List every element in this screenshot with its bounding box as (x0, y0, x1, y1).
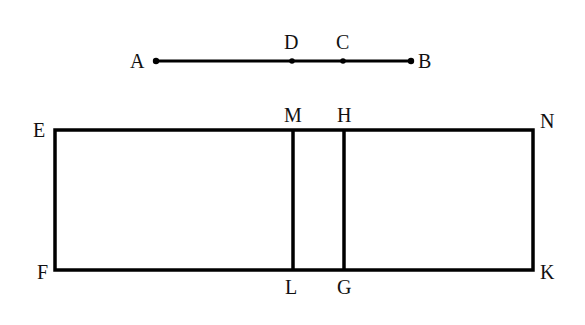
label-k: K (540, 261, 555, 283)
rectangle-efkn: E M H N F L G K (33, 104, 555, 298)
label-f: F (37, 261, 48, 283)
label-d: D (284, 31, 298, 53)
label-l: L (285, 276, 297, 298)
label-b: B (418, 50, 431, 72)
point-b-dot (408, 58, 414, 64)
label-h: H (337, 104, 351, 126)
label-a: A (130, 50, 145, 72)
geometry-diagram: A D C B E M H N F L G K (0, 0, 585, 325)
point-c-dot (340, 58, 346, 64)
label-c: C (336, 31, 349, 53)
label-e: E (33, 119, 45, 141)
segment-ab: A D C B (130, 31, 431, 72)
label-m: M (284, 104, 302, 126)
label-n: N (540, 110, 554, 132)
label-g: G (337, 276, 351, 298)
point-a-dot (153, 58, 159, 64)
point-d-dot (289, 58, 295, 64)
